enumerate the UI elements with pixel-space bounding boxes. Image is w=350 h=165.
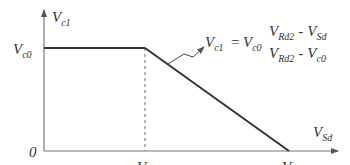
callout-leader: [168, 54, 193, 64]
origin-label: 0: [29, 144, 37, 160]
callout-arrow: [193, 47, 204, 57]
x-tick-label-vrd2: VRd2: [282, 159, 307, 165]
equation-numerator: VRd2-VSd: [269, 23, 327, 42]
equation-denominator: VRd2-Vc0: [269, 45, 326, 64]
equation-factor: Vc0: [243, 34, 262, 53]
x-axis-label: VSd: [313, 124, 333, 143]
diagram-canvas: Vc1 Vc0 0 Vc0 VRd2 VSd Vc1 = Vc0 VRd2-VS…: [0, 0, 350, 165]
y-axis-label: Vc1: [52, 9, 71, 28]
equation-lhs: Vc1: [205, 34, 224, 53]
equation: Vc1 = Vc0 VRd2-VSd VRd2-Vc0: [205, 23, 327, 64]
y-tick-label-vc0: Vc0: [13, 41, 32, 60]
falling-segment: [145, 48, 289, 151]
equation-equals: =: [231, 34, 239, 50]
x-tick-label-vc0: Vc0: [137, 159, 156, 165]
